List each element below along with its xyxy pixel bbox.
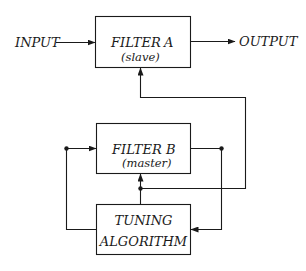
junction-dot-right: [219, 146, 223, 150]
filter-a-title: FILTER: [111, 36, 161, 49]
reference-input-path: [67, 149, 97, 230]
junction-dot-left: [64, 146, 68, 150]
filter-a-letter: A: [164, 36, 173, 49]
output-label: OUTPUT: [239, 35, 297, 48]
junction-dot-center: [138, 186, 142, 190]
block-diagram: INPUT OUTPUT FILTER A (slave) FILTER B (…: [0, 0, 306, 271]
tuning-line-2: ALGORITHM: [96, 235, 191, 248]
filter-b-letter: B: [166, 143, 176, 156]
input-label: INPUT: [15, 36, 60, 49]
filter-a-subtitle: (slave): [121, 52, 160, 64]
tuning-line-1: TUNING: [96, 214, 191, 227]
filter-b-title: FILTER: [112, 143, 162, 156]
filter-b-subtitle: (master): [122, 158, 172, 170]
coefficient-copy-path: [141, 68, 246, 189]
